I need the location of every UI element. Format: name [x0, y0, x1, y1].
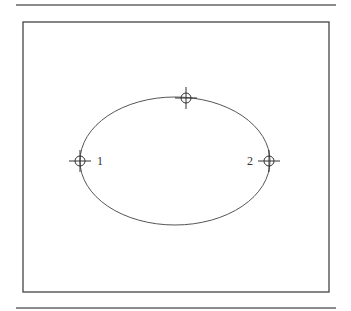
crosshair-marker-2 [258, 150, 280, 172]
crosshair-marker-top [175, 87, 197, 109]
crosshair-marker-1 [69, 150, 91, 172]
ellipse-curve [80, 97, 270, 225]
marker-label-1: 1 [97, 154, 103, 168]
diagram-frame [23, 22, 329, 292]
marker-label-2: 2 [247, 154, 253, 168]
ellipse-diagram: 1 2 [0, 0, 351, 311]
